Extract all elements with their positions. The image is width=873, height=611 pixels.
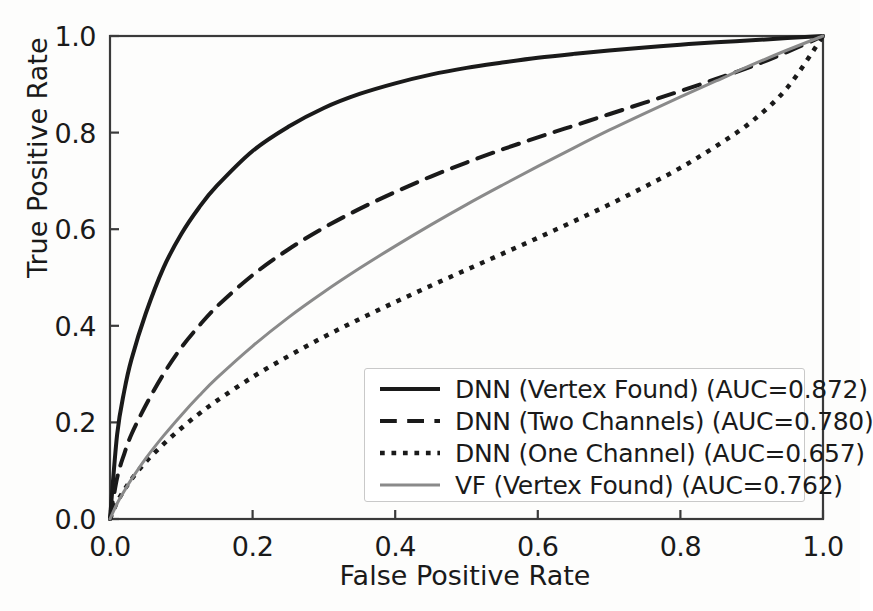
legend-line-swatch [379, 475, 441, 495]
legend-line-swatch [379, 443, 441, 463]
legend-item-label: DNN (Vertex Found) (AUC=0.872) [455, 375, 868, 404]
y-tick-label: 0.4 [55, 310, 96, 341]
legend-item: DNN (Vertex Found) (AUC=0.872) [365, 373, 804, 405]
y-tick-label: 1.0 [55, 21, 96, 52]
legend-item-label: DNN (Two Channels) (AUC=0.780) [455, 407, 873, 436]
x-tick-label: 1.0 [802, 531, 843, 562]
x-tick-label: 0.8 [660, 531, 701, 562]
legend-item: DNN (Two Channels) (AUC=0.780) [365, 405, 804, 437]
legend-line-swatch [379, 379, 441, 399]
legend-item-label: DNN (One Channel) (AUC=0.657) [455, 439, 865, 468]
y-tick-label: 0.0 [55, 504, 96, 535]
x-tick-label: 0.0 [89, 531, 130, 562]
y-tick-label: 0.8 [55, 117, 96, 148]
y-tick-label: 0.2 [55, 407, 96, 438]
chart-legend: DNN (Vertex Found) (AUC=0.872)DNN (Two C… [364, 368, 805, 502]
legend-item: VF (Vertex Found) (AUC=0.762) [365, 469, 804, 501]
legend-item-label: VF (Vertex Found) (AUC=0.762) [455, 471, 843, 500]
x-tick-label: 0.6 [517, 531, 558, 562]
x-tick-label: 0.4 [374, 531, 415, 562]
x-axis-label: False Positive Rate [340, 560, 591, 591]
legend-line-swatch [379, 411, 441, 431]
legend-item: DNN (One Channel) (AUC=0.657) [365, 437, 804, 469]
x-tick-label: 0.2 [232, 531, 273, 562]
y-axis-label: True Positive Rate [22, 37, 53, 278]
y-tick-label: 0.6 [55, 214, 96, 245]
